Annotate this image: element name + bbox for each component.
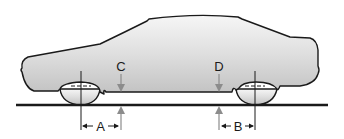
ride-height-diagram: C D A B: [0, 0, 344, 139]
car-body: [21, 15, 319, 94]
label-b: B: [234, 119, 243, 134]
front-wheel: [60, 89, 100, 105]
label-d: D: [214, 59, 223, 74]
rear-wheel: [236, 89, 277, 105]
label-a: A: [96, 119, 105, 134]
label-c: C: [116, 59, 125, 74]
